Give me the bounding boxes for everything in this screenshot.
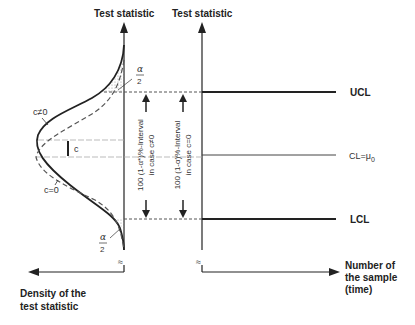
left-x-axis-label-line2: test statistic <box>20 301 79 312</box>
arrow-left-icon <box>28 268 39 276</box>
arrow-down-icon <box>142 210 150 218</box>
arrow-up-icon <box>198 22 206 33</box>
ucl-label: UCL <box>350 87 371 98</box>
alpha-bottom-label: α 2 <box>99 228 121 254</box>
svg-text:100 (1-α)%-Interval: 100 (1-α)%-Interval <box>173 120 182 189</box>
nominal-curve-label: c=0 <box>44 185 59 195</box>
right-x-axis <box>202 268 340 276</box>
interval-shifted-label: 100 (1-α*)%-Interval in case c≠0 <box>136 119 156 191</box>
left-axis-title: Test statistic <box>94 8 155 19</box>
upper-tail-area <box>100 50 124 92</box>
shift-label: c <box>74 144 79 154</box>
svg-text:2: 2 <box>137 77 142 86</box>
svg-text:α: α <box>100 232 106 242</box>
svg-text:α: α <box>137 64 143 74</box>
control-chart-diagram: Test statistic Density of the test stati… <box>0 0 415 325</box>
arrow-up-icon <box>142 94 150 102</box>
lcl-label: LCL <box>350 214 369 225</box>
arrow-down-icon <box>179 210 187 218</box>
axis-break-right-icon: ≈ <box>196 257 201 267</box>
cl-label: CL=μ0 <box>349 151 375 163</box>
arrow-right-icon <box>329 268 340 276</box>
shifted-curve-label: c≠0 <box>33 107 47 117</box>
svg-text:100 (1-α*)%-Interval: 100 (1-α*)%-Interval <box>136 119 145 191</box>
right-x-axis-label-line3: (time) <box>345 284 372 295</box>
svg-text:in case c=0: in case c=0 <box>184 134 193 175</box>
left-x-axis <box>28 268 124 276</box>
interval-nominal-label: 100 (1-α)%-Interval in case c=0 <box>173 120 193 189</box>
arrow-up-icon <box>179 94 187 102</box>
axis-break-left-icon: ≈ <box>118 257 123 267</box>
svg-text:2: 2 <box>100 245 105 254</box>
left-x-axis-label-line1: Density of the <box>20 288 87 299</box>
svg-text:in case c≠0: in case c≠0 <box>147 134 156 175</box>
right-x-axis-label-line2: the sample <box>345 272 398 283</box>
right-axis-title: Test statistic <box>172 8 233 19</box>
right-y-axis <box>198 22 206 272</box>
shifted-density-curve <box>37 45 124 250</box>
arrow-up-icon <box>120 22 128 33</box>
right-x-axis-label-line1: Number of <box>345 260 396 271</box>
